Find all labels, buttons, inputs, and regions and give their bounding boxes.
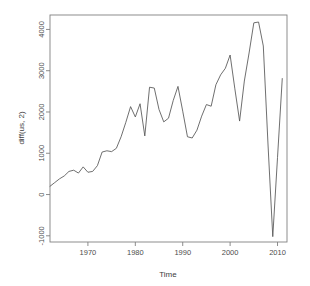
y-tick-label: 0 — [37, 192, 46, 196]
y-axis-title: diff(us, 2) — [17, 111, 26, 145]
line-series-diff-us-2 — [50, 22, 282, 237]
chart-canvas: -100001000200030004000 19701980199020002… — [0, 0, 310, 286]
y-tick-label: 2000 — [37, 104, 46, 121]
data-series-group — [50, 22, 282, 237]
y-tick-label: -1000 — [37, 226, 46, 245]
y-tick-label: 1000 — [37, 145, 46, 162]
plot-box-border — [50, 15, 287, 242]
x-tick-label: 1970 — [80, 248, 97, 257]
y-tick-label: 4000 — [37, 21, 46, 38]
plot-frame — [50, 15, 287, 242]
x-tick-label: 1980 — [127, 248, 144, 257]
y-axis-ticks: -100001000200030004000 — [37, 21, 50, 245]
y-tick-label: 3000 — [37, 62, 46, 79]
x-axis-ticks: 19701980199020002010 — [80, 242, 286, 257]
x-axis-title: Time — [159, 270, 177, 279]
x-tick-label: 1990 — [174, 248, 191, 257]
x-tick-label: 2010 — [269, 248, 286, 257]
x-tick-label: 2000 — [222, 248, 239, 257]
chart-container: -100001000200030004000 19701980199020002… — [0, 0, 310, 286]
